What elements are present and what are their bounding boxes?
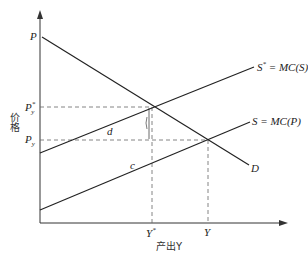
- private-price-label: Py: [25, 134, 35, 148]
- brace-icon: [146, 117, 147, 129]
- social-supply-label: S* = MC(S): [257, 61, 308, 73]
- y-axis-label: 价格: [8, 112, 18, 132]
- private-supply-label: S = MC(P): [252, 116, 301, 127]
- private-supply-curve: [40, 122, 250, 210]
- social-price-label: P*y: [25, 101, 34, 116]
- y-axis-arrow-icon: [37, 10, 43, 19]
- demand-label: D: [251, 163, 259, 174]
- private-output-label: Y: [204, 227, 210, 238]
- x-axis-arrow-icon: [279, 220, 288, 226]
- area-c-label: c: [130, 160, 135, 171]
- price-intercept-label: P: [30, 31, 37, 42]
- x-axis-label: 产出Y: [156, 242, 182, 252]
- area-d-label: d: [107, 126, 113, 137]
- demand-curve: [42, 37, 249, 165]
- diagram-canvas: [0, 0, 308, 257]
- social-output-label: Y*: [146, 227, 156, 239]
